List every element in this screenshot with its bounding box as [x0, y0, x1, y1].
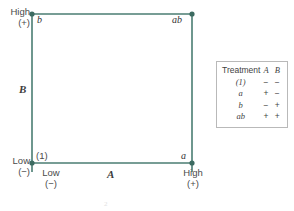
legend-table: Treatment A B (1) − − a + − b − — [221, 65, 283, 123]
y-axis-high-label-line1: High — [0, 7, 30, 18]
legend-table-body: (1) − − a + − b − + ab + + — [221, 77, 283, 123]
vertex-dot-b — [29, 11, 34, 16]
x-axis-high-label-line2: (+) — [176, 179, 210, 190]
legend-header-row: Treatment A B — [221, 65, 283, 77]
x-axis-low-label-line2: (−) — [34, 179, 68, 190]
legend-cell-a: + — [260, 88, 271, 100]
treatment-label-ab: ab — [172, 14, 182, 25]
table-row: (1) − − — [221, 77, 283, 89]
treatment-label-b: b — [37, 14, 42, 25]
y-axis-high-label: High (+) — [0, 7, 30, 28]
y-axis-low-label-line1: Low — [0, 156, 30, 167]
legend-cell-a: − — [260, 100, 271, 112]
legend-cell-b: − — [272, 88, 283, 100]
table-row: a + − — [221, 88, 283, 100]
legend-table-head: Treatment A B — [221, 65, 283, 77]
y-axis-high-label-line2: (+) — [0, 18, 30, 29]
legend-cell-b: + — [272, 100, 283, 112]
legend-header-treatment: Treatment — [221, 65, 260, 77]
x-axis-high-label: High (+) — [176, 168, 210, 189]
x-axis-letter-A: A — [107, 168, 114, 180]
legend-cell-a: − — [260, 77, 271, 89]
legend-cell-b: + — [272, 111, 283, 123]
legend-cell-treatment: ab — [221, 111, 260, 123]
treatment-legend-table: Treatment A B (1) − − a + − b − — [216, 61, 288, 128]
treatment-label-a: a — [181, 150, 186, 161]
legend-cell-treatment: (1) — [221, 77, 260, 89]
vertex-dot-ab — [189, 11, 194, 16]
y-axis-letter-B: B — [19, 83, 26, 95]
legend-cell-a: + — [260, 111, 271, 123]
legend-header-factor-b: B — [272, 65, 283, 77]
x-axis-low-label: Low (−) — [34, 168, 68, 189]
vertex-dot-a — [189, 160, 194, 165]
table-row: ab + + — [221, 111, 283, 123]
table-row: b − + — [221, 100, 283, 112]
y-axis-low-label: Low (−) — [0, 156, 30, 177]
x-axis-high-label-line1: High — [176, 168, 210, 179]
page-artifact: 2 — [104, 200, 108, 208]
y-axis-low-label-line2: (−) — [0, 167, 30, 178]
legend-cell-b: − — [272, 77, 283, 89]
legend-cell-treatment: b — [221, 100, 260, 112]
treatment-label-1: (1) — [36, 150, 48, 161]
x-axis-low-label-line1: Low — [34, 168, 68, 179]
legend-header-factor-a: A — [260, 65, 271, 77]
legend-cell-treatment: a — [221, 88, 260, 100]
factorial-design-figure: b ab (1) a B A High (+) Low (−) Low (−) … — [0, 0, 294, 211]
vertex-dot-1 — [29, 160, 34, 165]
